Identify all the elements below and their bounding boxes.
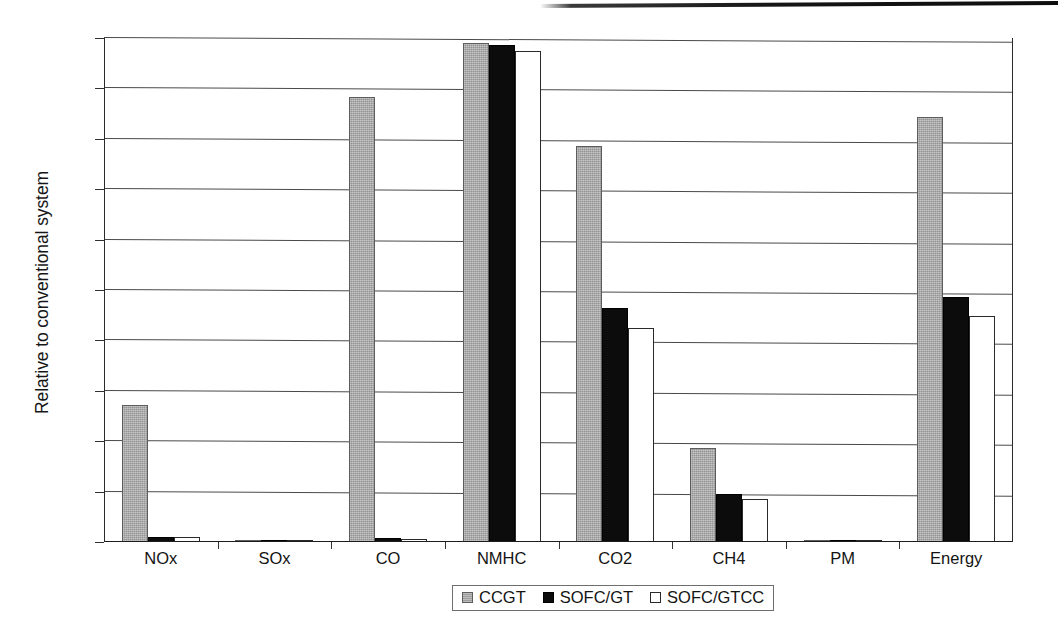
bar-group-co xyxy=(349,38,427,542)
x-axis-tick-labels: NOxSOxCONMHCCO2CH4PMEnergy xyxy=(104,549,1013,575)
bar-ch4-ccgt[interactable] xyxy=(690,448,716,542)
bar-nox-ccgt[interactable] xyxy=(122,405,148,542)
legend-swatch-icon xyxy=(462,592,473,603)
bar-chart-figure: Relative to conventional system 0%10%20%… xyxy=(0,0,1058,633)
bar-nox-sofc-gtcc[interactable] xyxy=(174,537,200,542)
bar-nmhc-sofc-gt[interactable] xyxy=(489,45,515,542)
bar-co2-sofc-gt[interactable] xyxy=(602,308,628,542)
bar-pm-ccgt[interactable] xyxy=(804,540,830,542)
x-axis-label-co2: CO2 xyxy=(598,549,632,568)
bar-group-nmhc xyxy=(463,38,541,542)
y-axis-tick-mark xyxy=(95,139,104,140)
bar-energy-ccgt[interactable] xyxy=(917,117,943,542)
x-axis-label-pm: PM xyxy=(830,549,855,568)
legend-item-ccgt[interactable]: CCGT xyxy=(462,588,526,607)
x-axis-label-nmhc: NMHC xyxy=(477,549,527,568)
y-axis-tick-mark xyxy=(95,340,104,341)
x-axis-label-sox: SOx xyxy=(258,549,290,568)
x-axis-tick-mark xyxy=(331,542,332,549)
bar-co-ccgt[interactable] xyxy=(349,97,375,542)
y-axis-tick-mark xyxy=(95,492,104,493)
bar-group-ch4 xyxy=(690,38,768,542)
bar-co-sofc-gt[interactable] xyxy=(375,538,401,542)
bar-ch4-sofc-gt[interactable] xyxy=(716,494,742,542)
bar-nmhc-ccgt[interactable] xyxy=(463,43,489,542)
legend-swatch-icon xyxy=(543,592,554,603)
bar-co2-ccgt[interactable] xyxy=(576,146,602,542)
legend-label: SOFC/GTCC xyxy=(667,588,764,607)
legend-item-sofc-gt[interactable]: SOFC/GT xyxy=(543,588,633,607)
bar-co-sofc-gtcc[interactable] xyxy=(401,539,427,542)
y-axis-tick-mark xyxy=(95,240,104,241)
x-axis-label-ch4: CH4 xyxy=(712,549,745,568)
legend-item-sofc-gtcc[interactable]: SOFC/GTCC xyxy=(650,588,764,607)
bar-energy-sofc-gt[interactable] xyxy=(943,297,969,542)
y-axis-tick-mark xyxy=(95,189,104,190)
legend-label: SOFC/GT xyxy=(560,588,633,607)
x-axis-label-co: CO xyxy=(376,549,401,568)
y-axis-title: Relative to conventional system xyxy=(32,83,53,503)
x-axis-label-energy: Energy xyxy=(930,549,982,568)
bar-pm-sofc-gt[interactable] xyxy=(830,540,856,542)
bar-sox-ccgt[interactable] xyxy=(235,540,261,542)
y-axis-tick-mark xyxy=(95,441,104,442)
x-axis-tick-mark xyxy=(786,542,787,549)
legend-swatch-icon xyxy=(650,592,661,603)
x-axis-tick-mark xyxy=(445,542,446,549)
bar-nox-sofc-gt[interactable] xyxy=(148,537,174,542)
x-axis-tick-mark xyxy=(899,542,900,549)
bar-pm-sofc-gtcc[interactable] xyxy=(856,540,882,542)
bar-group-energy xyxy=(917,38,995,542)
bar-co2-sofc-gtcc[interactable] xyxy=(628,328,654,542)
chart-legend: CCGTSOFC/GTSOFC/GTCC xyxy=(452,585,774,611)
bar-nmhc-sofc-gtcc[interactable] xyxy=(515,51,541,542)
plot-area xyxy=(104,38,1013,542)
y-axis-tick-mark xyxy=(95,88,104,89)
x-axis-tick-mark xyxy=(672,542,673,549)
bar-sox-sofc-gtcc[interactable] xyxy=(287,540,313,542)
legend-label: CCGT xyxy=(479,588,526,607)
bar-group-sox xyxy=(235,38,313,542)
bar-group-co2 xyxy=(576,38,654,542)
bar-sox-sofc-gt[interactable] xyxy=(261,540,287,542)
bar-group-nox xyxy=(122,38,200,542)
x-axis-label-nox: NOx xyxy=(144,549,177,568)
bar-group-pm xyxy=(804,38,882,542)
bar-energy-sofc-gtcc[interactable] xyxy=(969,316,995,542)
y-axis-tick-mark xyxy=(95,290,104,291)
y-axis-tick-mark xyxy=(95,542,104,543)
bar-ch4-sofc-gtcc[interactable] xyxy=(742,499,768,542)
y-axis-tick-mark xyxy=(95,391,104,392)
x-axis-tick-mark xyxy=(559,542,560,549)
y-axis-tick-mark xyxy=(95,38,104,39)
x-axis-tick-mark xyxy=(218,542,219,549)
